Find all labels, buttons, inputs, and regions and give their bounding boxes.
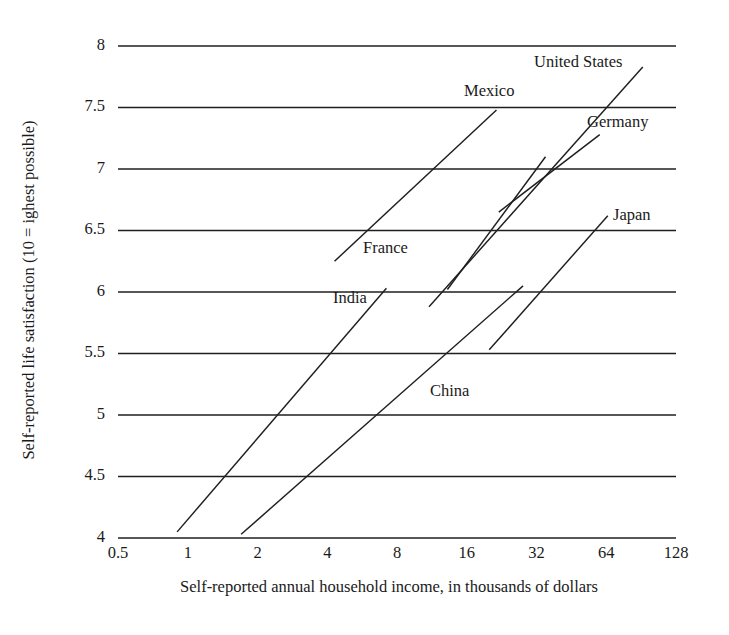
x-axis-tick-labels: 0.51248163264128 — [108, 543, 689, 562]
x-tick-label: 1 — [184, 543, 192, 562]
y-tick-label: 5.5 — [84, 342, 105, 361]
x-tick-label: 16 — [459, 543, 476, 562]
y-tick-label: 5 — [97, 404, 105, 423]
y-tick-label: 6 — [97, 281, 105, 300]
y-tick-label: 8 — [97, 35, 105, 54]
scatter-line-plot: 87.576.565.554.54 0.51248163264128 Unite… — [0, 0, 729, 635]
y-tick-label: 7.5 — [84, 96, 105, 115]
x-tick-label: 128 — [664, 543, 689, 562]
series-line-india — [177, 288, 386, 532]
y-tick-label: 4 — [97, 527, 105, 546]
y-tick-label: 7 — [97, 158, 105, 177]
series-line-japan — [489, 216, 608, 350]
series-line-france — [447, 157, 545, 290]
y-tick-label: 6.5 — [84, 219, 105, 238]
x-tick-label: 0.5 — [108, 543, 129, 562]
series-label-germany: Germany — [587, 112, 649, 131]
y-axis-tick-labels: 87.576.565.554.54 — [84, 35, 105, 546]
chart-figure: 87.576.565.554.54 0.51248163264128 Unite… — [0, 0, 729, 635]
series-label-mexico: Mexico — [464, 81, 514, 100]
series-line-china — [241, 286, 523, 534]
series-label-china: China — [430, 381, 470, 400]
x-tick-label: 64 — [598, 543, 615, 562]
y-tick-label: 4.5 — [84, 465, 105, 484]
x-tick-label: 4 — [323, 543, 331, 562]
x-tick-label: 32 — [528, 543, 545, 562]
series-lines-group — [177, 67, 643, 534]
series-label-united-states: United States — [534, 52, 622, 71]
series-label-india: India — [333, 288, 368, 307]
series-label-japan: Japan — [613, 205, 651, 224]
x-tick-label: 2 — [253, 543, 261, 562]
x-axis-title: Self-reported annual household income, i… — [180, 577, 598, 596]
y-axis-title: Self-reported life satisfaction (10 = ig… — [19, 120, 38, 459]
series-label-france: France — [363, 238, 408, 257]
series-line-mexico — [335, 110, 497, 261]
x-tick-label: 8 — [393, 543, 401, 562]
